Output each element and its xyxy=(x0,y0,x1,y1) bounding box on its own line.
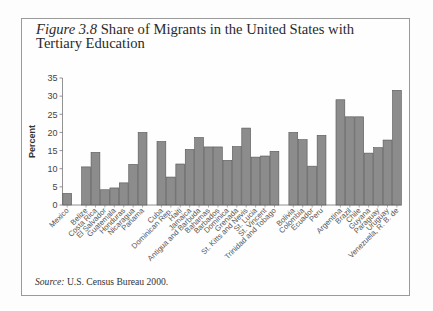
bar xyxy=(336,100,345,205)
bar xyxy=(82,167,91,205)
bar xyxy=(298,140,307,205)
bar xyxy=(129,164,138,205)
bar xyxy=(261,156,270,205)
bar xyxy=(214,147,223,205)
bar xyxy=(138,132,147,205)
bar xyxy=(317,135,326,205)
y-tick-label: 20 xyxy=(47,128,57,138)
bar xyxy=(308,166,317,205)
y-tick-label: 5 xyxy=(52,182,57,192)
bar xyxy=(393,90,402,205)
bar xyxy=(355,117,364,205)
bar xyxy=(195,138,204,205)
bar xyxy=(63,193,72,205)
bar xyxy=(157,142,166,206)
y-tick-label: 15 xyxy=(47,146,57,156)
y-tick-label: 25 xyxy=(47,110,57,120)
bar xyxy=(345,117,354,205)
bar xyxy=(270,151,279,205)
bar-chart: 05101520253035PercentMexicoBelizeCosta R… xyxy=(0,0,433,311)
bar xyxy=(242,128,251,205)
bar xyxy=(289,132,298,205)
bar xyxy=(374,148,383,205)
bar xyxy=(204,147,213,205)
bar xyxy=(119,183,128,205)
bar xyxy=(185,149,194,205)
y-tick-label: 30 xyxy=(47,91,57,101)
source-text: U.S. Census Bureau 2000. xyxy=(67,276,168,287)
bar xyxy=(364,153,373,205)
bar xyxy=(110,188,119,205)
bar xyxy=(91,152,100,205)
bar xyxy=(166,177,175,205)
bar xyxy=(232,147,241,205)
bar xyxy=(223,160,232,205)
bar xyxy=(383,140,392,205)
bar xyxy=(100,190,109,205)
source-note: Source: U.S. Census Bureau 2000. xyxy=(35,276,168,287)
bar xyxy=(176,164,185,205)
y-tick-label: 10 xyxy=(47,164,57,174)
y-tick-label: 0 xyxy=(52,200,57,210)
y-tick-label: 35 xyxy=(47,73,57,83)
bar xyxy=(251,157,260,205)
y-axis-label: Percent xyxy=(27,125,37,158)
x-tick-label: Mexico xyxy=(47,206,70,229)
source-label: Source: xyxy=(35,276,64,287)
